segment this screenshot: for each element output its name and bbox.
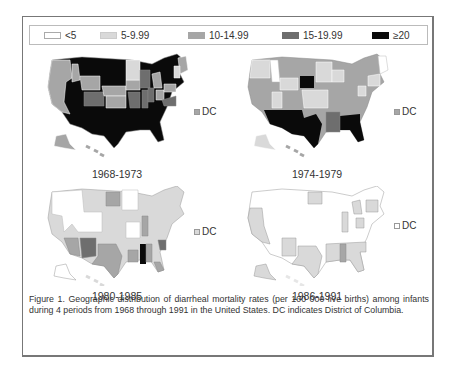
- dc-marker: DC: [394, 106, 416, 117]
- dc-swatch: [194, 229, 200, 235]
- map-1968-1973: DC 1968-1973: [42, 52, 192, 162]
- dc-swatch: [394, 109, 400, 115]
- map-1974-1979: DC 1974-1979: [242, 52, 392, 162]
- legend-item-5-9: 5-9.99: [100, 30, 149, 41]
- dc-label: DC: [402, 220, 416, 231]
- dc-swatch: [394, 223, 400, 229]
- legend-label: 5-9.99: [121, 30, 149, 41]
- dc-label: DC: [202, 106, 216, 117]
- dc-marker: DC: [394, 220, 416, 231]
- legend: <5 5-9.99 10-14.99 15-19.99 ≥20: [29, 25, 428, 45]
- legend-label: 10-14.99: [209, 30, 248, 41]
- legend-item-15-19: 15-19.99: [282, 30, 342, 41]
- legend-item-lt5: <5: [44, 30, 76, 41]
- legend-swatch: [282, 32, 299, 39]
- legend-swatch: [100, 32, 117, 39]
- legend-swatch: [188, 32, 205, 39]
- dc-swatch: [194, 109, 200, 115]
- map-1980-1985: DC 1980-1985: [42, 186, 192, 286]
- legend-item-10-14: 10-14.99: [188, 30, 248, 41]
- legend-swatch: [372, 32, 389, 39]
- legend-label: <5: [65, 30, 76, 41]
- legend-swatch: [44, 32, 61, 39]
- dc-label: DC: [402, 106, 416, 117]
- legend-item-gte20: ≥20: [372, 30, 410, 41]
- map-period-label: 1968-1973: [57, 168, 177, 180]
- figure-caption: Figure 1. Geographic distribution of dia…: [29, 294, 429, 316]
- map-period-label: 1974-1979: [257, 168, 377, 180]
- dc-label: DC: [202, 226, 216, 237]
- legend-label: 15-19.99: [303, 30, 342, 41]
- dc-marker: DC: [194, 106, 216, 117]
- legend-label: ≥20: [393, 30, 410, 41]
- dc-marker: DC: [194, 226, 216, 237]
- map-1986-1991: DC 1986-1991: [242, 186, 392, 286]
